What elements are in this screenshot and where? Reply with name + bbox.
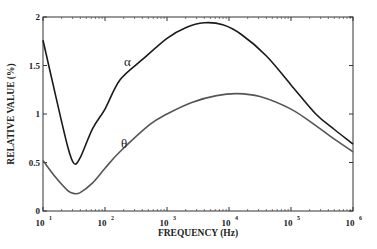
y-tick-label: 0 [36,206,41,216]
line-chart: 101102103104105106 00.511.52 αθ FREQUENC… [0,0,377,249]
x-tick-label: 10 [346,218,356,228]
plot-frame [43,17,353,211]
y-tick-label: 2 [36,12,41,22]
y-tick-label: 0.5 [29,158,41,168]
y-tick-label: 1 [36,109,41,119]
x-tick-label: 10 [160,218,170,228]
x-tick-exponent: 3 [173,215,176,221]
theta-label: θ [121,136,127,151]
y-axis-title: RELATIVE VALUE (%) [6,63,17,164]
x-tick-exponent: 2 [111,215,114,221]
x-axis-title: FREQUENCY (Hz) [158,228,238,239]
x-tick-label: 10 [98,218,108,228]
x-tick-label: 10 [222,218,232,228]
y-tick-label: 1.5 [29,61,41,71]
x-tick-exponent: 5 [297,215,300,221]
x-tick-label: 10 [284,218,294,228]
theta-curve [43,94,353,194]
x-tick-exponent: 6 [359,215,362,221]
curves [43,23,353,194]
curve-labels: αθ [121,54,131,151]
x-tick-label: 10 [36,218,46,228]
x-tick-exponent: 4 [235,215,238,221]
y-axis-ticks: 00.511.52 [29,12,353,216]
alpha-label: α [124,54,131,69]
x-tick-exponent: 1 [49,215,52,221]
alpha-curve [43,23,353,165]
x-axis-ticks: 101102103104105106 [36,17,363,228]
